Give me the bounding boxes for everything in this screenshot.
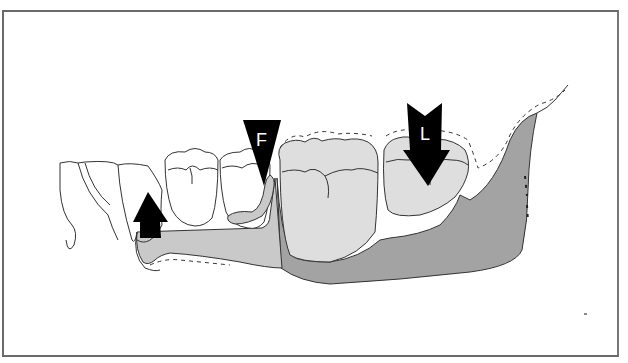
molar-1 [279,138,378,262]
label-L: L [420,124,430,144]
speck [584,313,587,315]
premolar-1 [165,149,218,227]
dental-diagram: F L [0,0,628,363]
label-F: F [256,130,267,150]
